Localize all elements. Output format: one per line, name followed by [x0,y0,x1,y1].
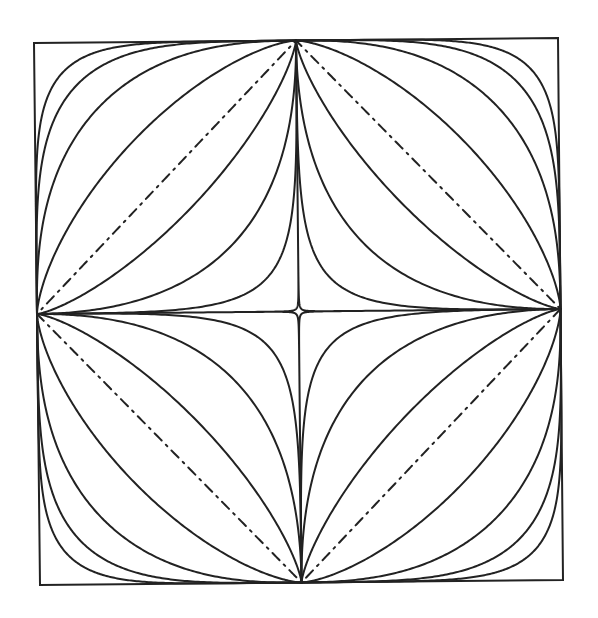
superellipse-n-0.15-star [37,41,561,583]
superellipse-n-0.33 [37,41,561,583]
curve-family [36,40,561,584]
superellipse-n-6 [36,40,561,584]
superellipse-diagram [0,0,598,618]
superellipse-n-0.75 [37,41,561,583]
bounding-square [34,38,563,585]
superellipse-n-0.5-astroid-like [37,41,561,583]
superellipse-n-2.5 [37,40,561,582]
superellipse-n-4 [36,40,560,583]
superellipse-n-1-diamond [37,41,561,583]
superellipse-n-1.5 [37,41,561,583]
